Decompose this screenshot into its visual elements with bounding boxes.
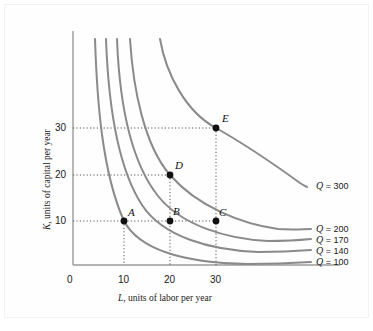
point-label-e: E xyxy=(222,112,229,124)
point-label-d: D xyxy=(175,159,183,171)
curve-label-q300: Q = 300 xyxy=(316,180,349,191)
curve-label-q170-value: = 170 xyxy=(326,235,349,245)
y-axis-variable: K xyxy=(42,224,52,230)
isoquant-curve-q100 xyxy=(95,39,311,264)
curve-label-q100: Q = 100 xyxy=(316,256,349,267)
x-axis-title: L, units of labor per year xyxy=(118,293,212,303)
data-point-e[interactable] xyxy=(213,125,220,132)
curve-label-q300-symbol: Q xyxy=(316,180,323,191)
isoquant-curves xyxy=(95,39,311,264)
data-point-d[interactable] xyxy=(167,172,174,179)
y-tick-label-30: 30 xyxy=(55,122,66,133)
isoquant-figure: 30 20 10 0 10 20 30 K, units of capital … xyxy=(0,0,373,331)
data-point-b[interactable] xyxy=(167,218,174,225)
curve-label-q300-value: = 300 xyxy=(326,181,349,191)
x-axis-title-rest: , units of labor per year xyxy=(123,293,212,303)
curve-label-q170-symbol: Q xyxy=(316,234,323,245)
point-label-b: B xyxy=(173,205,180,217)
curve-label-q200: Q = 200 xyxy=(316,223,349,234)
y-tick-label-10: 10 xyxy=(55,215,66,226)
curve-label-q170: Q = 170 xyxy=(316,234,349,245)
isoquant-curve-q200 xyxy=(130,39,311,229)
isoquant-plot xyxy=(0,0,373,331)
curve-label-q140-value: = 140 xyxy=(326,246,349,256)
curve-label-q200-symbol: Q xyxy=(316,223,323,234)
y-axis-title-rest: , units of capital per year xyxy=(42,129,52,223)
curve-label-q100-symbol: Q xyxy=(316,256,323,267)
curve-label-q200-value: = 200 xyxy=(326,224,349,234)
data-point-a[interactable] xyxy=(121,218,128,225)
x-tick-label-10: 10 xyxy=(118,274,129,285)
point-label-c: C xyxy=(219,206,226,218)
isoquant-curve-q140 xyxy=(106,39,311,252)
x-tick-label-30: 30 xyxy=(210,274,221,285)
data-point-c[interactable] xyxy=(213,218,220,225)
point-label-a: A xyxy=(128,206,135,218)
curve-label-q140: Q = 140 xyxy=(316,245,349,256)
curve-label-q140-symbol: Q xyxy=(316,245,323,256)
y-tick-label-20: 20 xyxy=(55,169,66,180)
y-axis-title: K, units of capital per year xyxy=(42,129,52,230)
curve-label-q100-value: = 100 xyxy=(326,257,349,267)
x-tick-label-0: 0 xyxy=(67,274,73,285)
x-tick-label-20: 20 xyxy=(164,274,175,285)
